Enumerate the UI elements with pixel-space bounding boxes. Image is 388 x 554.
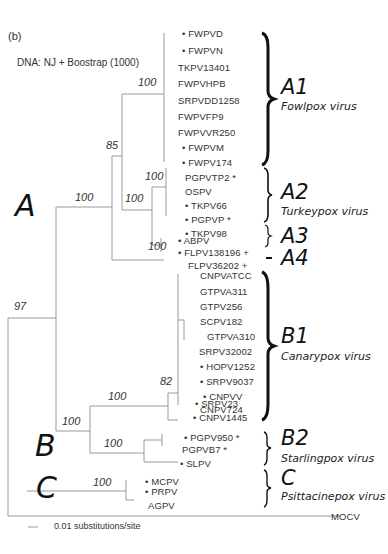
taxon-label: • FWPVD [182,28,223,39]
clade-a-label: A [15,188,36,223]
taxon-label: SRPV32002 [199,346,252,357]
clade-a3-label: A3 [281,224,309,248]
scale-bar-label: 0.01 substitutions/site [54,521,141,531]
taxon-label: • FWPVN [182,45,223,56]
taxon-label: • FWPV174 [182,157,232,168]
taxon-label: PGPVB7 * [182,444,227,455]
panel-label: (b) [8,30,21,42]
bootstrap-a1: 100 [138,76,156,88]
clade-a1-virus: Fowlpox virus [281,100,357,113]
taxon-label: • FWPVM [182,142,224,153]
taxon-label: TKPV13401 [178,62,230,73]
bootstrap-a3: 100 [148,240,166,252]
brace-a1 [262,33,274,165]
bootstrap-a-inner: 85 [106,139,118,151]
clade-b2-label: B2 [281,426,309,450]
taxon-label: PGPVTP2 * [185,172,236,183]
taxon-label: • FLPV138196 + [178,247,249,258]
taxon-label: • SRPV23 [195,398,238,409]
bootstrap-b: 100 [62,415,80,427]
clade-a4-label: A4 [281,246,309,270]
clade-c-virus: Psittacinepox virus [281,490,385,503]
clade-a2-label: A2 [281,180,309,204]
bootstrap-a2-a3: 100 [125,192,143,204]
bootstrap-a2: 100 [145,170,163,182]
taxon-label: • CNPV1445 [193,412,248,423]
clade-c-group-label: C [281,466,296,490]
taxon-label: AGPV [148,500,175,511]
clade-b1-label: B1 [281,324,309,348]
outgroup-label: MOCV [331,511,360,522]
taxon-label: • SLPV [180,458,211,469]
taxon-label: • PRPV [145,486,177,497]
taxon-label: OSPV [185,186,212,197]
clade-c-label: C [36,470,57,505]
taxon-label: • PGPVP * [185,214,231,225]
taxon-label: FWPVHPB [178,78,226,89]
clade-a1-label: A1 [281,75,309,99]
bootstrap-a: 100 [75,191,93,203]
clade-b1-virus: Canarypox virus [281,350,371,363]
taxon-label: • HOPV1252 [200,361,255,372]
bootstrap-c: 100 [93,476,111,488]
bootstrap-root: 97 [14,300,26,312]
taxon-label: GTPV256 [200,301,242,312]
taxon-label: • ABPV [178,235,209,246]
taxon-label: GTPVA310 [207,331,255,342]
taxon-label: • SRPV9037 [200,376,254,387]
taxon-label: SCPV182 [200,316,242,327]
taxon-label: GTPVA311 [200,286,247,297]
bootstrap-b1: 100 [108,390,126,402]
taxon-label: FWPVFP9 [178,111,224,122]
clade-b2-virus: Starlingpox virus [281,452,374,465]
taxon-label: • TKPV66 [185,200,227,211]
clade-a2-virus: Turkeypox virus [281,205,368,218]
clade-b-label: B [35,428,56,463]
taxon-label: • PGPV950 * [184,432,240,443]
taxon-label: CNPVATCC [200,270,252,281]
taxon-label: FWPVVR250 [178,127,235,138]
method-label: DNA: NJ + Boostrap (1000) [17,57,139,68]
bootstrap-b1-inner: 82 [160,375,172,387]
taxon-label: SRPVDD1258 [178,95,240,106]
bootstrap-b2: 100 [104,437,122,449]
